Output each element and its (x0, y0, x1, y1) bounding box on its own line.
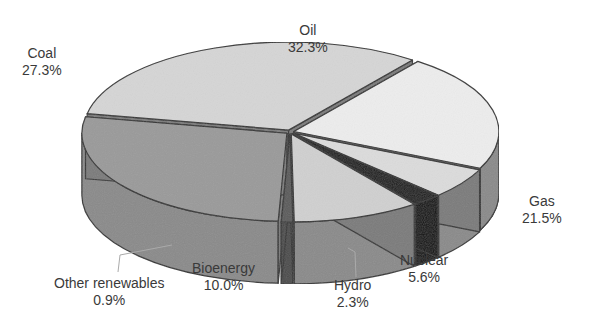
label-gas: Gas 21.5% (522, 193, 562, 227)
label-hydro-name: Hydro (334, 277, 371, 294)
slice-coal (82, 117, 287, 283)
label-gas-name: Gas (522, 193, 562, 210)
label-oil-name: Oil (288, 22, 328, 39)
label-other-value: 0.9% (54, 292, 165, 309)
label-oil-value: 32.3% (288, 39, 328, 56)
label-hydro: Hydro 2.3% (334, 277, 371, 311)
label-bioenergy-value: 10.0% (192, 277, 255, 294)
label-coal-name: Coal (22, 45, 62, 62)
label-other-name: Other renewables (54, 275, 165, 292)
label-nuclear-value: 5.6% (400, 269, 448, 286)
label-bioenergy: Bioenergy 10.0% (192, 260, 255, 294)
label-gas-value: 21.5% (522, 210, 562, 227)
label-coal: Coal 27.3% (22, 45, 62, 79)
label-coal-value: 27.3% (22, 62, 62, 79)
label-bioenergy-name: Bioenergy (192, 260, 255, 277)
label-other-renewables: Other renewables 0.9% (54, 275, 165, 309)
label-oil: Oil 32.3% (288, 22, 328, 56)
label-nuclear-name: Nuclear (400, 252, 448, 269)
label-nuclear: Nuclear 5.6% (400, 252, 448, 286)
label-hydro-value: 2.3% (334, 294, 371, 311)
